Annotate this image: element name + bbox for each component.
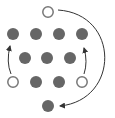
filled-coin-bottom [42, 100, 54, 112]
empty-coin-top [43, 7, 53, 17]
filled-coin-r1c1 [7, 28, 19, 40]
coin-puzzle-diagram [0, 0, 115, 118]
filled-coin-r2c2 [41, 52, 53, 64]
filled-coin-r3c2 [30, 76, 42, 88]
coins-group [7, 7, 88, 112]
filled-coin-r1c4 [76, 28, 88, 40]
filled-coin-r1c2 [30, 28, 42, 40]
filled-coin-r2c3 [64, 52, 76, 64]
filled-coin-r3c3 [53, 76, 65, 88]
filled-coin-r1c3 [53, 28, 65, 40]
arrow-left-move [8, 46, 11, 74]
empty-coin-r3c1 [8, 77, 18, 87]
filled-coin-r2c1 [19, 52, 31, 64]
empty-coin-r3c4 [77, 77, 87, 87]
arrow-right-move [84, 48, 86, 74]
